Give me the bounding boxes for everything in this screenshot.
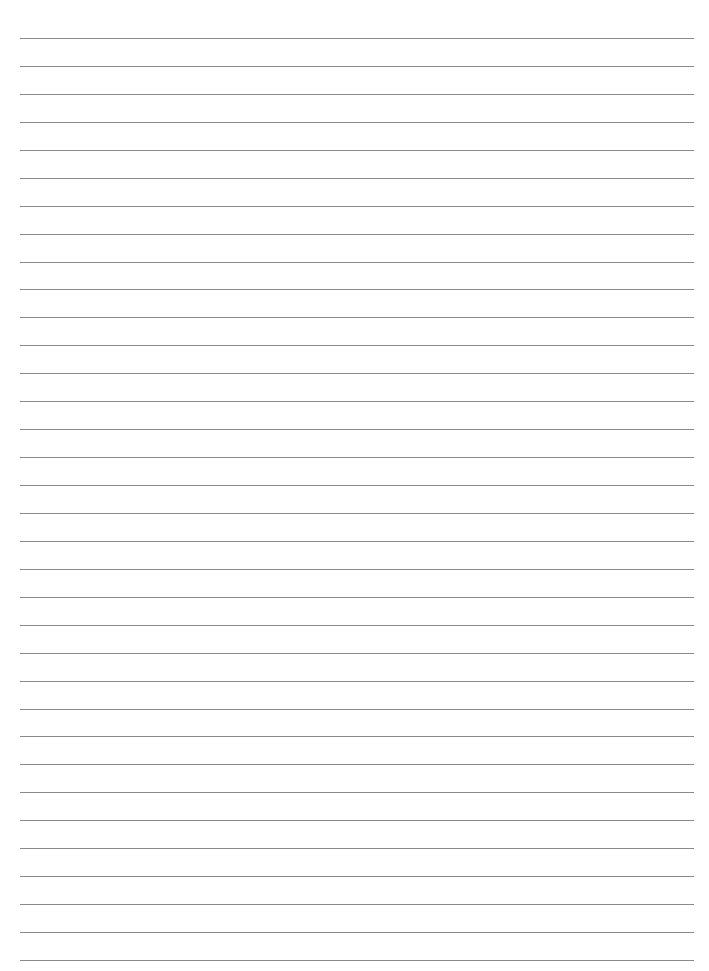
ruled-line [20, 960, 694, 961]
ruled-line [20, 569, 694, 570]
ruled-line [20, 457, 694, 458]
ruled-line [20, 764, 694, 765]
ruled-line [20, 820, 694, 821]
ruled-line [20, 485, 694, 486]
ruled-line [20, 597, 694, 598]
ruled-line [20, 625, 694, 626]
ruled-line [20, 206, 694, 207]
ruled-line [20, 736, 694, 737]
ruled-line [20, 289, 694, 290]
ruled-line [20, 513, 694, 514]
ruled-line [20, 345, 694, 346]
ruled-line [20, 38, 694, 39]
ruled-line [20, 401, 694, 402]
ruled-line [20, 178, 694, 179]
ruled-line [20, 429, 694, 430]
ruled-line [20, 681, 694, 682]
ruled-line [20, 848, 694, 849]
ruled-line [20, 792, 694, 793]
ruled-line [20, 94, 694, 95]
ruled-line [20, 234, 694, 235]
ruled-line [20, 262, 694, 263]
ruled-line [20, 373, 694, 374]
ruled-line [20, 709, 694, 710]
ruled-line [20, 932, 694, 933]
ruled-line [20, 653, 694, 654]
ruled-line [20, 66, 694, 67]
ruled-line [20, 876, 694, 877]
ruled-line [20, 150, 694, 151]
ruled-line [20, 317, 694, 318]
ruled-line [20, 904, 694, 905]
ruled-line [20, 541, 694, 542]
ruled-page [0, 0, 709, 971]
ruled-line [20, 122, 694, 123]
